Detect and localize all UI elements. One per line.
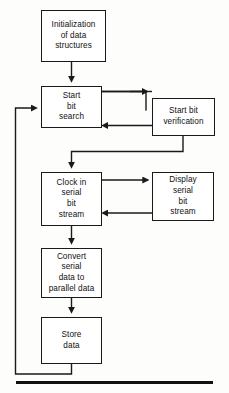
node-display-serial-bit-stream[interactable]: Display serial bit stream bbox=[152, 172, 214, 221]
node-clock-in-serial-bit-stream[interactable]: Clock in serial bit stream bbox=[41, 172, 102, 226]
node-initialization[interactable]: Initialization of data structures bbox=[41, 10, 106, 62]
node-start-bit-verification[interactable]: Start bit verification bbox=[152, 98, 215, 136]
edge-start-to-verify bbox=[102, 92, 147, 111]
node-convert-serial-data[interactable]: Convert serial data to parallel data bbox=[41, 248, 102, 298]
bottom-rule-divider bbox=[16, 381, 213, 384]
node-start-bit-search[interactable]: Start bit search bbox=[41, 86, 102, 128]
edge-verify-to-clock bbox=[72, 136, 184, 166]
node-store-data[interactable]: Store data bbox=[41, 317, 102, 364]
flowchart-canvas: Initialization of data structures Start … bbox=[0, 0, 229, 393]
